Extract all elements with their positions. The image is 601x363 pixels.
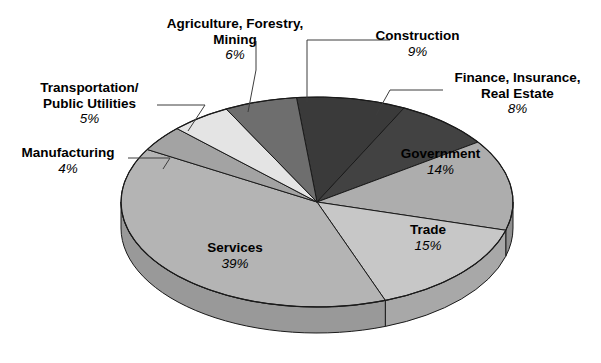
- label-manufacturing-line1: Manufacturing: [22, 145, 115, 160]
- label-services-pct: 39%: [180, 256, 290, 272]
- pie-chart-figure: Agriculture, Forestry, Mining 6% Transpo…: [0, 0, 601, 363]
- label-agriculture-pct: 6%: [140, 47, 330, 63]
- label-finance-line1: Finance, Insurance,: [454, 70, 580, 85]
- label-finance-line2: Real Estate: [481, 86, 554, 101]
- label-construction-pct: 9%: [345, 44, 490, 60]
- label-agriculture-line1: Agriculture, Forestry,: [167, 16, 303, 31]
- pie-top-faces: [121, 97, 513, 307]
- label-government: Government 14%: [378, 146, 503, 177]
- label-government-line1: Government: [401, 146, 481, 161]
- label-agriculture: Agriculture, Forestry, Mining 6%: [140, 16, 330, 63]
- label-trade-line1: Trade: [410, 222, 446, 237]
- label-transportation: Transportation/ Public Utilities 5%: [22, 80, 157, 127]
- label-agriculture-line2: Mining: [213, 32, 257, 47]
- label-trade-pct: 15%: [388, 238, 468, 254]
- label-finance-pct: 8%: [440, 101, 595, 117]
- label-government-pct: 14%: [378, 162, 503, 178]
- label-transportation-line1: Transportation/: [40, 80, 138, 95]
- label-construction: Construction 9%: [345, 28, 490, 59]
- label-transportation-pct: 5%: [22, 111, 157, 127]
- label-finance: Finance, Insurance, Real Estate 8%: [440, 70, 595, 117]
- label-manufacturing: Manufacturing 4%: [8, 145, 128, 176]
- label-services-line1: Services: [207, 240, 263, 255]
- label-services: Services 39%: [180, 240, 290, 271]
- label-manufacturing-pct: 4%: [8, 161, 128, 177]
- label-trade: Trade 15%: [388, 222, 468, 253]
- label-construction-line1: Construction: [376, 28, 460, 43]
- label-transportation-line2: Public Utilities: [43, 96, 136, 111]
